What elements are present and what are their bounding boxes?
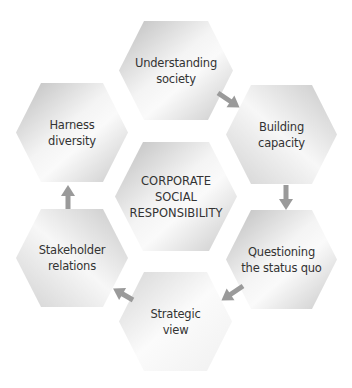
node-label-line: Strategic xyxy=(150,306,200,322)
node-questioning-status-quo: Questioning the status quo xyxy=(226,209,337,310)
node-building-capacity: Building capacity xyxy=(226,84,337,185)
node-label-line: diversity xyxy=(48,133,96,149)
node-label-line: the status quo xyxy=(241,260,321,276)
node-label-line: Harness xyxy=(49,117,94,133)
node-label-line: Building xyxy=(259,119,304,135)
node-label-line: Questioning xyxy=(248,244,315,260)
node-strategic-view: Strategic view xyxy=(119,271,232,372)
node-label-line: Stakeholder xyxy=(39,242,106,258)
node-harness-diversity: Harness diversity xyxy=(16,82,128,183)
center-label-line: CORPORATE xyxy=(141,173,211,189)
node-label-line: Understanding xyxy=(135,55,217,71)
node-label-line: capacity xyxy=(258,135,305,151)
arrow-building-to-questioning xyxy=(279,185,293,210)
center-label-line: SOCIAL xyxy=(155,189,197,205)
node-label-line: society xyxy=(156,71,196,87)
arrow-stakeholder-to-harness xyxy=(61,185,75,209)
node-label-line: relations xyxy=(48,258,96,274)
node-stakeholder-relations: Stakeholder relations xyxy=(16,208,128,308)
node-label-line: view xyxy=(163,322,189,338)
center-label-csr: CORPORATE SOCIAL RESPONSIBILITY xyxy=(115,142,237,252)
center-label-line: RESPONSIBILITY xyxy=(130,205,223,221)
node-understanding-society: Understanding society xyxy=(119,20,233,121)
